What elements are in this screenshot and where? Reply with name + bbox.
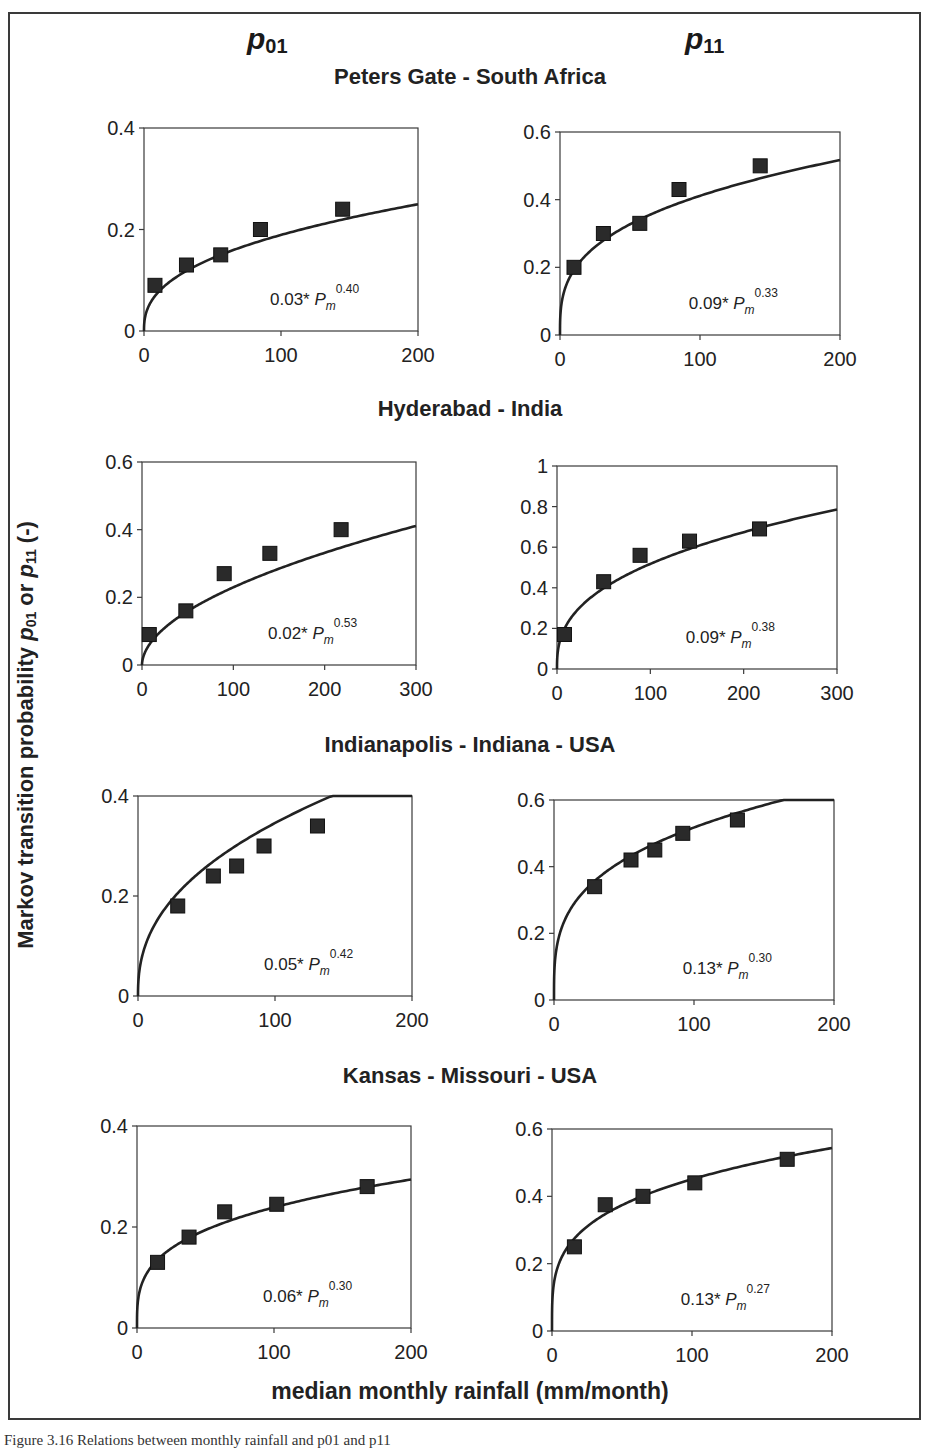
y-tick-label: 0 [540, 324, 551, 346]
y-tick-label: 0.2 [517, 922, 545, 944]
data-point-marker [270, 1197, 284, 1211]
y-tick-label: 0 [122, 654, 133, 676]
fit-equation-label: 0.02* Pm0.53 [268, 616, 357, 647]
y-tick-label: 0 [124, 320, 135, 342]
data-point-marker [263, 546, 277, 560]
data-point-marker [179, 258, 193, 272]
fit-equation-label: 0.09* Pm0.38 [686, 620, 775, 651]
y-tick-label: 0 [118, 985, 129, 1007]
y-tick-label: 0.6 [520, 536, 548, 558]
data-point-marker [588, 880, 602, 894]
data-point-marker [148, 278, 162, 292]
data-point-marker [598, 1198, 612, 1212]
x-tick-label: 0 [136, 678, 147, 700]
data-point-marker [151, 1255, 165, 1269]
data-point-marker [567, 260, 581, 274]
y-tick-label: 0.2 [515, 1253, 543, 1275]
y-tick-label: 0 [537, 658, 548, 680]
x-tick-label: 200 [395, 1009, 428, 1031]
y-tick-label: 0.4 [523, 189, 551, 211]
x-tick-label: 100 [257, 1341, 290, 1363]
fit-equation-label: 0.09* Pm0.33 [689, 286, 778, 317]
fit-equation-label: 0.05* Pm0.42 [264, 947, 353, 978]
data-point-marker [672, 183, 686, 197]
data-point-marker [648, 843, 662, 857]
data-point-marker [624, 853, 638, 867]
y-tick-label: 0 [117, 1317, 128, 1339]
data-point-marker [179, 604, 193, 618]
y-tick-label: 0.6 [517, 789, 545, 811]
x-tick-label: 200 [394, 1341, 427, 1363]
data-point-marker [171, 899, 185, 913]
chart-panel-peters-gate-south-africap11: 00.20.40.601002000.09* Pm0.33 [500, 118, 864, 379]
chart-panel-hyderabad-indiap01: 00.20.40.601002003000.02* Pm0.53 [82, 448, 440, 709]
y-tick-label: 0.4 [100, 1115, 128, 1137]
chart-panel-kansas-missouri-usap01: 00.20.401002000.06* Pm0.30 [77, 1112, 435, 1372]
data-point-marker [780, 1152, 794, 1166]
y-tick-label: 0.2 [105, 586, 133, 608]
x-tick-label: 0 [554, 348, 565, 370]
x-tick-label: 200 [308, 678, 341, 700]
y-tick-label: 0 [534, 989, 545, 1011]
data-point-marker [230, 859, 244, 873]
y-tick-label: 0.2 [100, 1216, 128, 1238]
data-point-marker [636, 1189, 650, 1203]
x-tick-label: 0 [138, 344, 149, 366]
data-point-marker [597, 575, 611, 589]
data-point-marker [334, 523, 348, 537]
x-tick-label: 100 [683, 348, 716, 370]
chart-panel-peters-gate-south-africap01: 00.20.401002000.03* Pm0.40 [84, 114, 442, 375]
data-point-marker [360, 1180, 374, 1194]
data-point-marker [142, 628, 156, 642]
data-point-marker [688, 1176, 702, 1190]
data-point-marker [676, 826, 690, 840]
y-tick-label: 0.8 [520, 496, 548, 518]
y-tick-label: 0.2 [101, 885, 129, 907]
y-tick-label: 0.4 [105, 519, 133, 541]
x-tick-label: 200 [815, 1344, 848, 1366]
data-point-marker [217, 567, 231, 581]
chart-panel-hyderabad-indiap11: 00.20.40.60.8101002003000.09* Pm0.38 [497, 452, 861, 713]
x-tick-label: 100 [258, 1009, 291, 1031]
y-tick-label: 0.2 [107, 219, 135, 241]
x-tick-label: 200 [727, 682, 760, 704]
data-point-marker [182, 1230, 196, 1244]
data-point-marker [336, 202, 350, 216]
fit-equation-label: 0.13* Pm0.27 [681, 1282, 770, 1313]
data-point-marker [730, 813, 744, 827]
y-tick-label: 0.4 [107, 117, 135, 139]
data-point-marker [753, 522, 767, 536]
y-tick-label: 0.4 [520, 577, 548, 599]
x-tick-label: 300 [820, 682, 853, 704]
y-tick-label: 0 [532, 1320, 543, 1342]
chart-panel-indianapolis-indiana-usap01: 00.20.401002000.05* Pm0.42 [78, 782, 436, 1040]
x-tick-label: 200 [817, 1013, 850, 1035]
data-point-marker [753, 159, 767, 173]
chart-panel-kansas-missouri-usap11: 00.20.40.601002000.13* Pm0.27 [492, 1115, 856, 1375]
x-axis-label: median monthly rainfall (mm/month) [0, 1378, 940, 1405]
data-point-marker [218, 1205, 232, 1219]
x-tick-label: 100 [264, 344, 297, 366]
x-tick-label: 0 [546, 1344, 557, 1366]
data-point-marker [683, 534, 697, 548]
site-title-hyderabad: Hyderabad - India [0, 396, 940, 422]
fit-equation-label: 0.03* Pm0.40 [270, 282, 359, 313]
x-tick-label: 200 [401, 344, 434, 366]
column-header-p01: p01 [247, 22, 288, 58]
data-point-marker [567, 1240, 581, 1254]
x-tick-label: 0 [548, 1013, 559, 1035]
y-tick-label: 0.4 [101, 785, 129, 807]
data-point-marker [214, 248, 228, 262]
y-tick-label: 0.4 [515, 1185, 543, 1207]
data-point-marker [596, 227, 610, 241]
y-tick-label: 0.4 [517, 856, 545, 878]
figure-caption: Figure 3.16 Relations between monthly ra… [4, 1432, 391, 1448]
x-tick-label: 0 [132, 1009, 143, 1031]
y-tick-label: 0.2 [523, 256, 551, 278]
site-title-indianapolis: Indianapolis - Indiana - USA [0, 732, 940, 758]
y-axis-label: Markov transition probability p01 or p11… [13, 521, 39, 949]
y-tick-label: 0.6 [515, 1118, 543, 1140]
x-tick-label: 200 [823, 348, 856, 370]
fit-curve [142, 526, 416, 665]
fit-equation-label: 0.06* Pm0.30 [263, 1279, 352, 1310]
